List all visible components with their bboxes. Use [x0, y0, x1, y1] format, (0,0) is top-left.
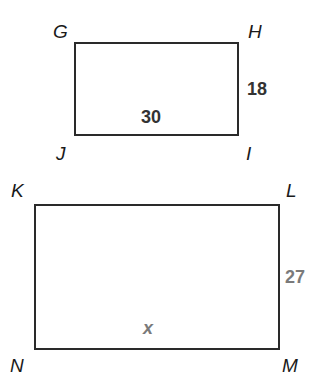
side-length-lm: 27	[285, 268, 305, 286]
rectangle-klmn	[34, 204, 280, 350]
vertex-label-g: G	[53, 22, 68, 41]
side-length-ji: 30	[141, 108, 161, 126]
vertex-label-i: I	[246, 144, 251, 163]
vertex-label-l: L	[286, 181, 297, 200]
vertex-label-m: M	[282, 356, 298, 375]
side-length-nm-variable: x	[143, 319, 153, 337]
vertex-label-k: K	[11, 181, 24, 200]
side-length-hi: 18	[247, 80, 267, 98]
vertex-label-h: H	[248, 22, 262, 41]
vertex-label-n: N	[10, 356, 24, 375]
vertex-label-j: J	[56, 144, 66, 163]
